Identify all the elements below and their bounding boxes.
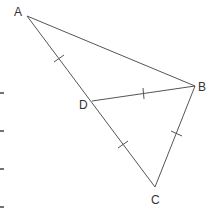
vertex-label-d: D bbox=[79, 98, 88, 112]
triangle-diagram: A B C D bbox=[0, 0, 217, 220]
segment-ab bbox=[27, 16, 195, 86]
tick-mark-ad bbox=[54, 55, 64, 62]
segment-bc bbox=[155, 86, 195, 187]
tick-mark-dc bbox=[118, 141, 128, 148]
vertex-label-b: B bbox=[198, 80, 206, 94]
vertex-label-a: A bbox=[14, 5, 22, 19]
vertex-label-c: C bbox=[151, 193, 160, 207]
segment-ac bbox=[27, 16, 155, 187]
tick-mark-db bbox=[143, 88, 144, 99]
